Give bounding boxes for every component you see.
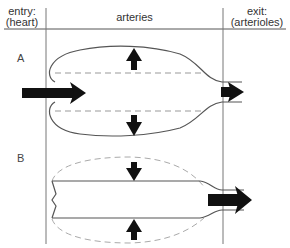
inward-pressure-arrow-down [126,162,142,181]
constricted-wall-bottom [52,210,244,218]
blood-exit-arrow-small [221,82,244,102]
expanded-wall-top [49,46,242,82]
outward-pressure-arrow-up [126,48,142,70]
blood-entry-arrow [22,82,86,104]
constricted-wall-top [52,181,244,190]
section-b-diagram [52,157,252,243]
outward-pressure-arrow-down [126,115,142,136]
inward-pressure-arrow-up [126,219,142,240]
expanded-outline-dashed [52,157,205,188]
expanded-wall-bottom [49,102,242,136]
vessel-cut-edge [52,181,56,218]
artery-diagram [0,0,290,248]
section-a-diagram [22,46,244,136]
